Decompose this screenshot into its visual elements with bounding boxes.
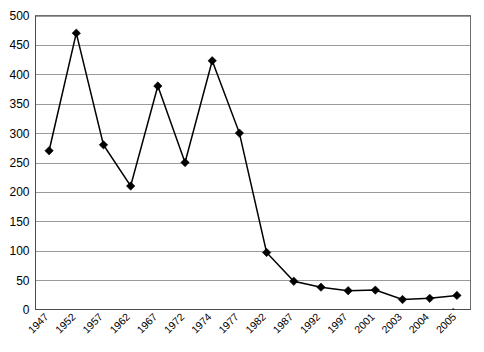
svg-text:1992: 1992 <box>297 310 322 335</box>
y-axis-tick-label: 150 <box>9 215 29 229</box>
svg-text:1997: 1997 <box>325 310 350 335</box>
svg-text:1982: 1982 <box>243 310 268 335</box>
x-axis-tick-labels: 1947195219571962196719721974197719821987… <box>26 306 462 335</box>
y-axis-tick-label: 500 <box>9 9 29 23</box>
x-axis-tick-label: 1997 <box>325 310 350 335</box>
x-axis-tick-label: 2005* <box>433 306 462 335</box>
x-axis-tick-label: 1992 <box>297 310 322 335</box>
y-axis-tick-label: 450 <box>9 38 29 52</box>
y-axis-tick-label: 350 <box>9 97 29 111</box>
x-axis-tick-label: 2003 <box>379 310 404 335</box>
svg-text:1952: 1952 <box>53 310 78 335</box>
x-axis-tick-label: 1972 <box>161 310 186 335</box>
x-axis-tick-label: 1952 <box>53 310 78 335</box>
y-axis-tick-label: 300 <box>9 127 29 141</box>
y-axis-tick-label: 400 <box>9 68 29 82</box>
svg-text:1977: 1977 <box>216 310 241 335</box>
y-axis-tick-label: 50 <box>16 274 30 288</box>
x-axis-tick-label: 1987 <box>270 310 295 335</box>
svg-text:2003: 2003 <box>379 310 404 335</box>
x-axis-tick-label: 1977 <box>216 310 241 335</box>
svg-text:2001: 2001 <box>352 310 377 335</box>
x-axis-tick-label: 1967 <box>134 310 159 335</box>
x-axis-tick-label: 1957 <box>80 310 105 335</box>
x-axis-tick-label: 1982 <box>243 310 268 335</box>
x-axis-tick-label: 1962 <box>107 310 132 335</box>
svg-text:1957: 1957 <box>80 310 105 335</box>
chart-container: 050100150200250300350400450500 194719521… <box>0 0 484 352</box>
y-axis-tick-labels: 050100150200250300350400450500 <box>9 9 29 317</box>
y-axis-tick-label: 250 <box>9 156 29 170</box>
svg-text:1987: 1987 <box>270 310 295 335</box>
x-axis-tick-label: 1974 <box>189 310 214 335</box>
svg-text:2005: 2005 <box>433 310 458 335</box>
x-axis-tick-label: 2001 <box>352 310 377 335</box>
y-axis-tick-label: 100 <box>9 244 29 258</box>
y-axis-tick-label: 200 <box>9 185 29 199</box>
plot-background <box>36 16 471 310</box>
svg-text:2004: 2004 <box>406 310 431 335</box>
svg-text:1962: 1962 <box>107 310 132 335</box>
y-axis-tick-label: 0 <box>23 303 30 317</box>
svg-text:1974: 1974 <box>189 310 214 335</box>
x-axis-tick-label: 2004 <box>406 310 431 335</box>
svg-text:1967: 1967 <box>134 310 159 335</box>
line-chart: 050100150200250300350400450500 194719521… <box>0 0 484 352</box>
svg-text:1972: 1972 <box>161 310 186 335</box>
